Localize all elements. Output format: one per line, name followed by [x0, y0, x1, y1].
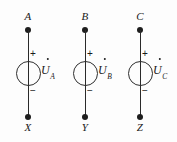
- source-branch: A + − UA X: [0, 0, 59, 142]
- terminal-node-bottom: [82, 114, 88, 120]
- polarity-minus-label: −: [142, 86, 154, 96]
- circuit-diagram: A + − UA X B + − UB Y C + − UC Z: [0, 0, 177, 142]
- polarity-minus-label: −: [87, 86, 99, 96]
- terminal-label-top: A: [0, 10, 56, 22]
- phasor-subscript: C: [162, 72, 167, 81]
- terminal-label-top: B: [57, 10, 113, 22]
- source-branch: B + − UB Y: [57, 0, 116, 142]
- source-branch: C + − UC Z: [112, 0, 171, 142]
- polarity-plus-label: +: [87, 49, 99, 59]
- phasor-voltage-label: UA: [41, 63, 54, 79]
- terminal-node-bottom: [137, 114, 143, 120]
- phasor-voltage-label: UB: [98, 63, 111, 79]
- terminal-label-bottom: X: [0, 121, 56, 133]
- polarity-minus-label: −: [30, 86, 42, 96]
- phasor-subscript: A: [50, 72, 55, 81]
- voltage-source-icon: [128, 61, 153, 86]
- terminal-node-bottom: [25, 114, 31, 120]
- phasor-symbol: U: [153, 63, 162, 77]
- phasor-dot-icon: [159, 58, 161, 60]
- phasor-dot-icon: [46, 58, 48, 60]
- voltage-source-icon: [73, 61, 98, 86]
- terminal-label-bottom: Z: [112, 121, 168, 133]
- polarity-plus-label: +: [142, 49, 154, 59]
- phasor-dot-icon: [103, 58, 105, 60]
- polarity-plus-label: +: [30, 49, 42, 59]
- phasor-symbol: U: [98, 63, 107, 77]
- phasor-voltage-label: UC: [153, 63, 167, 79]
- phasor-symbol: U: [41, 63, 50, 77]
- terminal-label-bottom: Y: [57, 121, 113, 133]
- voltage-source-icon: [16, 61, 41, 86]
- terminal-label-top: C: [112, 10, 168, 22]
